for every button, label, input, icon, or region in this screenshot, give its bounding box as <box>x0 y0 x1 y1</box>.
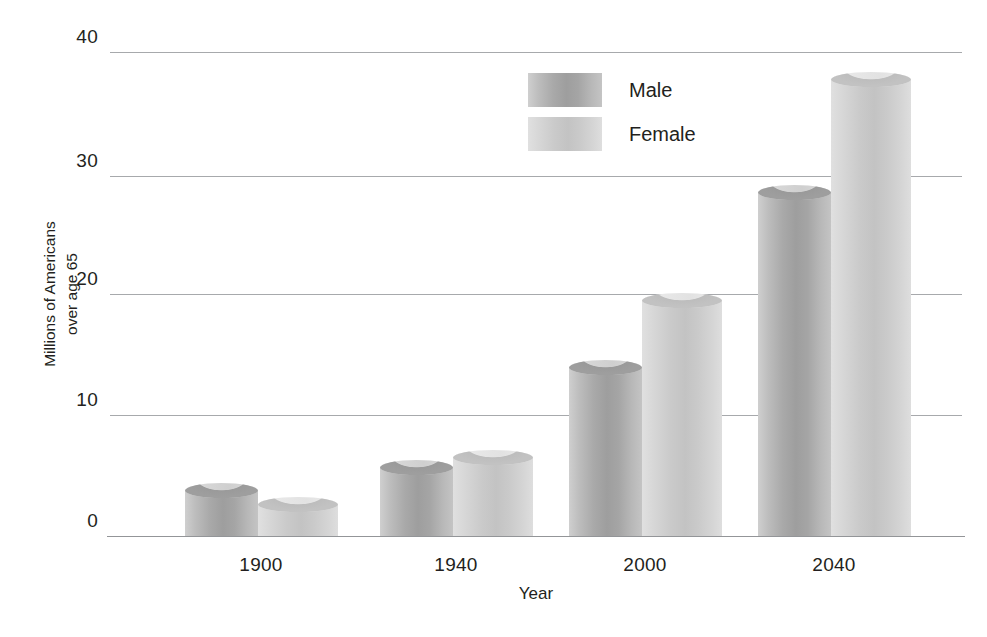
x-axis-line <box>107 536 965 537</box>
legend-label-male: Male <box>629 79 672 102</box>
x-axis-title: Year <box>110 584 962 604</box>
bar-cap-shadow <box>569 360 642 375</box>
legend-entry-male: Male <box>528 68 696 112</box>
legend-label-female: Female <box>629 123 696 146</box>
bar-cap-shadow <box>453 450 533 465</box>
x-tick-label-1900: 1900 <box>239 554 282 576</box>
chart-figure: Millions of Americans over age 65 0 10 2… <box>0 0 987 637</box>
bar-body <box>642 300 722 536</box>
male-swatch-icon <box>528 73 602 107</box>
bar-cap-shadow <box>380 460 453 475</box>
bar-body <box>453 457 533 536</box>
y-tick-label-20: 20 <box>38 269 98 288</box>
bar-cap-shadow <box>258 497 338 512</box>
bar-cap-shadow <box>642 293 722 308</box>
bar-female-1940 <box>453 450 533 536</box>
y-tick-label-40: 40 <box>38 27 98 46</box>
bar-male-1940 <box>380 460 453 536</box>
gridline-40: 40 <box>110 52 962 53</box>
bar-male-1900 <box>185 483 258 536</box>
x-axis: 1900 1940 2000 2040 <box>110 546 962 580</box>
legend-entry-female: Female <box>528 112 696 156</box>
bar-body <box>831 79 911 536</box>
x-tick-label-2000: 2000 <box>623 554 666 576</box>
y-tick-label-0: 0 <box>38 511 98 530</box>
bar-cap-shadow <box>831 72 911 87</box>
bar-body <box>758 192 831 536</box>
bar-female-1900 <box>258 497 338 536</box>
female-swatch-icon <box>528 117 602 151</box>
x-tick-label-2040: 2040 <box>812 554 855 576</box>
bar-cap-shadow <box>185 483 258 498</box>
x-tick-label-1940: 1940 <box>434 554 477 576</box>
y-tick-label-30: 30 <box>38 151 98 170</box>
bar-body <box>380 467 453 536</box>
y-tick-label-10: 10 <box>38 390 98 409</box>
y-axis-title-line-1: Millions of Americans <box>39 221 61 367</box>
bar-cap-shadow <box>758 185 831 200</box>
bar-male-2040 <box>758 185 831 536</box>
bar-female-2040 <box>831 72 911 536</box>
y-axis-title-line-2: over age 65 <box>61 221 83 367</box>
y-axis-title: Millions of Americans over age 65 <box>38 52 84 536</box>
bar-body <box>569 367 642 536</box>
legend: Male Female <box>528 68 696 156</box>
bar-female-2000 <box>642 293 722 536</box>
bar-male-2000 <box>569 360 642 536</box>
